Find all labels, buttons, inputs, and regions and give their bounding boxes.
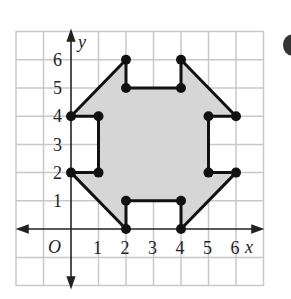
x-tick-3: 3 — [148, 238, 157, 258]
y-tick-6: 6 — [53, 50, 62, 70]
origin-label: O — [48, 237, 61, 257]
y-tick-4: 4 — [53, 106, 62, 126]
exercise-bullet-icon — [283, 35, 291, 56]
y-tick-1: 1 — [53, 191, 62, 211]
x-tick-5: 5 — [203, 238, 212, 258]
x-tick-1: 1 — [93, 238, 102, 258]
y-axis-label: y — [76, 32, 86, 52]
coordinate-plane: y x O 1 2 3 4 5 6 1 2 3 4 5 6 — [0, 0, 291, 299]
y-tick-3: 3 — [53, 135, 62, 155]
y-tick-5: 5 — [53, 78, 62, 98]
x-tick-4: 4 — [176, 238, 185, 258]
x-tick-6: 6 — [231, 238, 240, 258]
x-tick-2: 2 — [121, 238, 130, 258]
y-tick-2: 2 — [53, 163, 62, 183]
x-axis-label: x — [244, 237, 253, 257]
